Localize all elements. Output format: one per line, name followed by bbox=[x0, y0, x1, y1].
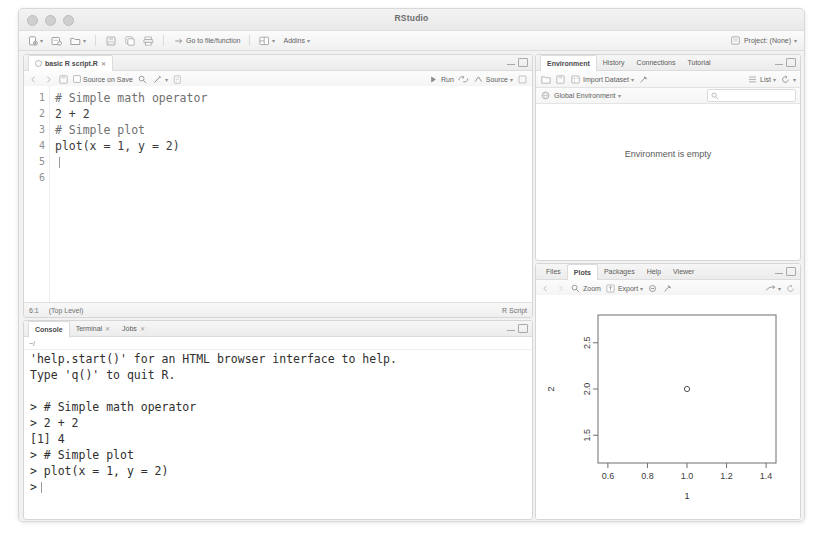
console-pane: Console Terminal ✕ Jobs ✕ ~/ bbox=[23, 320, 533, 520]
maximize-pane-button[interactable] bbox=[786, 58, 796, 67]
x-tick-label: 1.2 bbox=[720, 471, 733, 481]
scope-indicator[interactable]: (Top Level) bbox=[49, 307, 84, 314]
source-tabbar: basic R script.R ✕ bbox=[24, 55, 532, 71]
tab-connections[interactable]: Connections bbox=[631, 55, 682, 70]
maximize-pane-button[interactable] bbox=[786, 267, 796, 276]
save-button[interactable] bbox=[103, 34, 118, 47]
broom-icon[interactable] bbox=[638, 74, 649, 85]
publish-button[interactable]: ▾ bbox=[765, 283, 781, 294]
minimize-pane-button[interactable] bbox=[775, 60, 783, 65]
source-on-save-checkbox[interactable]: Source on Save bbox=[73, 75, 133, 83]
save-icon[interactable] bbox=[58, 74, 69, 85]
broom-icon[interactable] bbox=[662, 283, 673, 294]
workspace-panes-button[interactable]: ▾ bbox=[257, 34, 277, 47]
refresh-button[interactable]: ▾ bbox=[780, 74, 796, 85]
tab-packages[interactable]: Packages bbox=[598, 264, 641, 279]
import-dataset-button[interactable]: Import Dataset ▾ bbox=[570, 74, 634, 85]
minimize-pane-button[interactable] bbox=[507, 60, 515, 65]
run-label: Run bbox=[441, 76, 454, 83]
rerun-icon[interactable] bbox=[458, 74, 469, 85]
goto-file-function-button[interactable]: Go to file/function bbox=[171, 34, 242, 47]
open-file-button[interactable]: ▾ bbox=[68, 34, 88, 47]
arrow-right-icon[interactable] bbox=[555, 283, 566, 294]
zoom-plot-label: Zoom bbox=[583, 285, 601, 292]
export-plot-label: Export bbox=[618, 285, 638, 292]
forward-arrow-icon[interactable] bbox=[43, 74, 54, 85]
jobs-tab-label: Jobs bbox=[122, 325, 137, 332]
tab-viewer[interactable]: Viewer bbox=[667, 264, 700, 279]
print-button[interactable] bbox=[141, 34, 156, 47]
tab-environment[interactable]: Environment bbox=[540, 55, 597, 72]
close-icon[interactable]: ✕ bbox=[105, 325, 110, 332]
code-tools-button[interactable]: ▾ bbox=[152, 74, 168, 85]
code-text-area[interactable]: # Simple math operator 2 + 2 # Simple pl… bbox=[50, 86, 532, 303]
maximize-pane-button[interactable] bbox=[518, 58, 528, 67]
new-file-icon bbox=[27, 35, 38, 46]
console-output[interactable]: 'help.start()' for an HTML browser inter… bbox=[24, 349, 532, 519]
environment-tab-label: Environment bbox=[547, 60, 590, 67]
chevron-down-icon: ▾ bbox=[510, 76, 513, 83]
source-button[interactable]: Source ▾ bbox=[473, 74, 513, 85]
viewer-tab-label: Viewer bbox=[673, 268, 694, 275]
minimize-pane-button[interactable] bbox=[507, 326, 515, 331]
source-options-icon[interactable] bbox=[517, 74, 528, 85]
minimize-pane-button[interactable] bbox=[775, 269, 783, 274]
x-tick-label: 1.0 bbox=[681, 471, 694, 481]
remove-plot-icon[interactable] bbox=[647, 283, 658, 294]
tab-tutorial[interactable]: Tutorial bbox=[682, 55, 717, 70]
code-editor[interactable]: 1 2 3 4 5 6 # Simple math operator 2 + 2… bbox=[24, 86, 532, 303]
new-project-button[interactable] bbox=[49, 34, 64, 47]
run-button[interactable]: Run bbox=[428, 74, 454, 85]
plot-output-area[interactable]: 0.60.81.01.21.41.52.02.512 bbox=[536, 295, 800, 519]
refresh-plot-icon[interactable] bbox=[785, 283, 796, 294]
console-line: > 2 + 2 bbox=[30, 415, 532, 431]
chevron-down-icon: ▾ bbox=[640, 285, 643, 292]
open-folder-icon[interactable] bbox=[540, 74, 551, 85]
toolbar-divider bbox=[95, 35, 96, 46]
packages-tab-label: Packages bbox=[604, 268, 635, 275]
magnifier-icon[interactable] bbox=[137, 74, 148, 85]
zoom-plot-button[interactable]: Zoom bbox=[570, 283, 601, 294]
tab-files[interactable]: Files bbox=[540, 264, 567, 279]
tab-terminal[interactable]: Terminal ✕ bbox=[70, 321, 116, 336]
compile-report-icon[interactable] bbox=[172, 74, 183, 85]
chevron-down-icon: ▾ bbox=[83, 37, 86, 44]
text-cursor bbox=[59, 157, 60, 168]
export-icon bbox=[605, 283, 616, 294]
x-axis-label: 1 bbox=[684, 491, 689, 501]
plots-tabbar: Files Plots Packages Help Viewer bbox=[536, 264, 800, 280]
console-prompt-line[interactable]: > bbox=[30, 479, 532, 495]
tab-console[interactable]: Console bbox=[28, 321, 70, 338]
terminal-tab-label: Terminal bbox=[76, 325, 102, 332]
new-project-icon bbox=[51, 35, 62, 46]
y-axis-label: 2 bbox=[546, 386, 556, 391]
new-file-button[interactable]: ▾ bbox=[25, 34, 45, 47]
chevron-down-icon[interactable]: ▾ bbox=[618, 92, 621, 99]
cursor-position: 6:1 bbox=[29, 307, 39, 314]
tab-history[interactable]: History bbox=[597, 55, 631, 70]
back-arrow-icon[interactable] bbox=[28, 74, 39, 85]
close-icon[interactable]: ✕ bbox=[101, 60, 106, 67]
console-line: 'help.start()' for an HTML browser inter… bbox=[30, 351, 532, 367]
save-all-button[interactable] bbox=[122, 34, 137, 47]
file-type-indicator[interactable]: R Script bbox=[502, 307, 527, 314]
source-on-save-label: Source on Save bbox=[83, 76, 133, 83]
environment-toolbar: Import Dataset ▾ bbox=[536, 71, 800, 88]
x-tick-label: 0.6 bbox=[602, 471, 615, 481]
tab-help[interactable]: Help bbox=[641, 264, 667, 279]
pane-grid: basic R script.R ✕ bbox=[19, 51, 804, 522]
tab-plots[interactable]: Plots bbox=[567, 264, 598, 281]
addins-button[interactable]: Addins ▾ bbox=[281, 36, 311, 45]
view-mode-button[interactable]: List ▾ bbox=[747, 74, 776, 85]
project-menu-button[interactable]: Project: (None) ▾ bbox=[730, 35, 797, 46]
save-icon[interactable] bbox=[555, 74, 566, 85]
export-plot-button[interactable]: Export ▾ bbox=[605, 283, 643, 294]
toolbar-divider bbox=[249, 35, 250, 46]
environment-scope-label[interactable]: Global Environment bbox=[554, 92, 615, 99]
source-tab-basic-r-script[interactable]: basic R script.R ✕ bbox=[28, 55, 113, 72]
close-icon[interactable]: ✕ bbox=[140, 325, 145, 332]
maximize-pane-button[interactable] bbox=[518, 324, 528, 333]
arrow-left-icon[interactable] bbox=[540, 283, 551, 294]
source-tab-label: basic R script.R bbox=[45, 60, 98, 67]
tab-jobs[interactable]: Jobs ✕ bbox=[116, 321, 151, 336]
